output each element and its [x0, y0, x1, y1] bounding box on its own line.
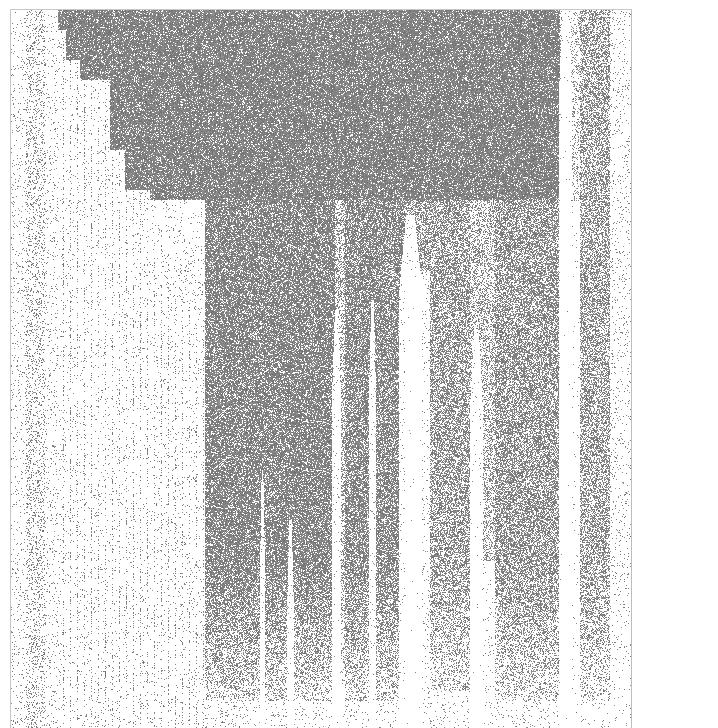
plot-frame — [10, 9, 632, 728]
sparsity-plot-figure — [0, 0, 718, 728]
